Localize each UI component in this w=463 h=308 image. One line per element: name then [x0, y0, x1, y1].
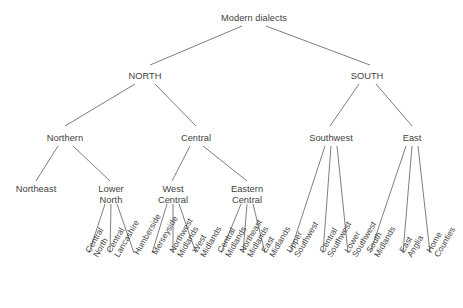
- node-eastern-central-line2: Central: [232, 195, 262, 205]
- tree-leaf-labels: Central North Central Lancashire Humbers…: [83, 212, 457, 259]
- node-north: NORTH: [129, 71, 162, 81]
- node-northeast: Northeast: [16, 184, 57, 194]
- leaf-east-anglia: East Anglia: [397, 229, 425, 259]
- leaf-east-midlands: East Midlands: [259, 220, 292, 259]
- edge-northern-northeast: [36, 146, 58, 181]
- leaf-home-counties: Home Counties: [424, 220, 457, 258]
- dialect-tree-diagram: Modern dialects NORTH SOUTH Northern Cen…: [0, 0, 463, 308]
- node-west-central: West: [162, 184, 183, 194]
- node-lower-north-line2: North: [100, 195, 123, 205]
- node-lower-north: Lower: [98, 184, 123, 194]
- edge-north-northern: [65, 84, 135, 126]
- tree-node-labels: Modern dialects NORTH SOUTH Northern Cen…: [16, 13, 422, 205]
- edge-north-central: [155, 84, 196, 126]
- node-south: SOUTH: [351, 71, 384, 81]
- node-central: Central: [181, 133, 211, 143]
- leaf-west-midlands: West Midlands: [190, 220, 223, 259]
- node-root: Modern dialects: [221, 13, 287, 23]
- node-west-central-line2: Central: [158, 195, 188, 205]
- leaf-upper-southwest: Upper Southwest: [284, 215, 320, 259]
- node-east: East: [403, 133, 422, 143]
- edge-root-north: [150, 26, 242, 65]
- edge-root-south: [266, 26, 370, 65]
- node-southwest: Southwest: [309, 133, 353, 143]
- edge-central-easterncentral: [203, 146, 247, 181]
- node-eastern-central: Eastern: [231, 184, 263, 194]
- tree-edges: [36, 26, 430, 253]
- edge-northern-lowernorth: [73, 146, 110, 181]
- edge-south-east: [376, 84, 412, 126]
- edge-south-southwest: [330, 84, 359, 126]
- node-northern: Northern: [47, 133, 83, 143]
- edge-central-westcentral: [172, 146, 190, 181]
